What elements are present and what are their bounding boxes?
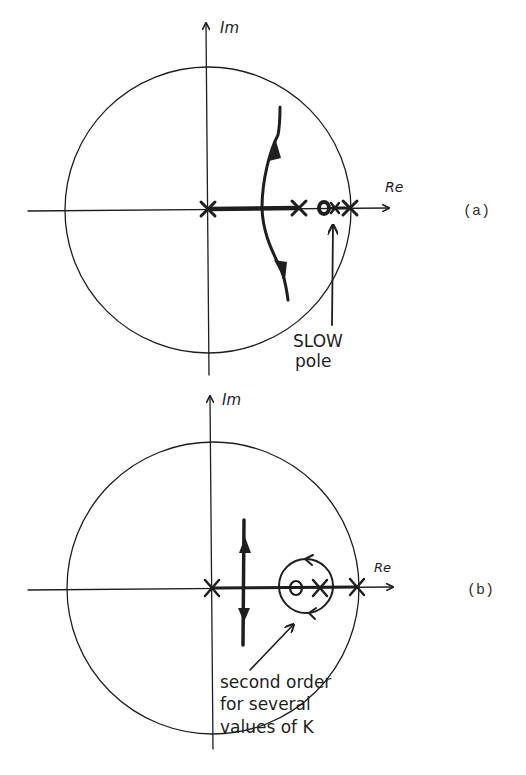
panel-label-a: (a)	[463, 203, 490, 220]
circle-arrow-bottom-icon	[309, 608, 316, 619]
second-order-label-line1: second order	[220, 672, 331, 692]
slow-pole-pointer	[332, 226, 333, 325]
second-order-label-line3: values of K	[220, 717, 314, 737]
imaginary-axis	[206, 24, 209, 375]
second-order-label-line2: for several	[220, 694, 311, 714]
slow-pole-label-line1: SLOW	[293, 331, 343, 351]
panel-label-b: (b)	[467, 582, 494, 599]
complex-branch-down	[262, 208, 288, 300]
panel-b: Im Re se	[28, 391, 494, 749]
imaginary-axis	[210, 397, 213, 749]
real-axis-locus	[210, 208, 298, 209]
second-order-pointer	[250, 625, 293, 670]
re-axis-label: Re	[374, 560, 391, 575]
vertical-branch	[243, 520, 244, 645]
real-axis-locus	[213, 587, 356, 588]
arrow-down-icon	[274, 260, 287, 280]
root-locus-figure: Im Re	[0, 0, 526, 775]
re-axis-label: Re	[385, 179, 403, 195]
im-axis-label: Im	[222, 391, 241, 409]
im-axis-label: Im	[220, 19, 239, 37]
slow-pole-label-line2: pole	[295, 351, 331, 371]
arrow-up-icon	[239, 537, 251, 553]
arrow-down-icon	[238, 608, 250, 622]
panel-a: Im Re	[28, 19, 490, 375]
